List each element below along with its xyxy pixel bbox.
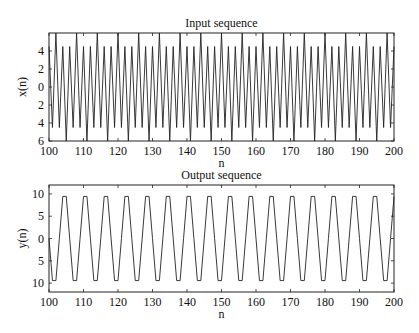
- y-axis-label: x(n): [15, 77, 29, 97]
- x-tick-label: 200: [385, 144, 403, 158]
- x-tick-label: 100: [40, 295, 58, 309]
- x-tick-label: 180: [316, 144, 334, 158]
- plot-title: Input sequence: [185, 16, 257, 30]
- y-axis-label: y(n): [15, 229, 29, 249]
- x-tick-label: 140: [178, 144, 196, 158]
- y-tick-label: 2: [38, 98, 44, 112]
- y-tick-label: 0: [38, 232, 44, 246]
- x-tick-label: 140: [178, 295, 196, 309]
- x-tick-label: 190: [351, 295, 369, 309]
- y-tick-label: 0: [38, 80, 44, 94]
- data-line: [49, 33, 394, 141]
- input-sequence-plot: 100110120130140150160170180190200420246I…: [15, 16, 403, 170]
- y-tick-label: 10: [32, 187, 44, 201]
- x-tick-label: 130: [144, 295, 162, 309]
- y-tick-label: 5: [38, 254, 44, 268]
- x-tick-label: 120: [109, 144, 127, 158]
- x-tick-label: 170: [282, 295, 300, 309]
- x-tick-label: 200: [385, 295, 403, 309]
- y-tick-label: 10: [32, 276, 44, 290]
- x-tick-label: 170: [282, 144, 300, 158]
- x-tick-label: 190: [351, 144, 369, 158]
- figure: 100110120130140150160170180190200420246I…: [0, 0, 419, 333]
- x-tick-label: 160: [247, 144, 265, 158]
- data-line: [49, 196, 394, 280]
- x-tick-label: 180: [316, 295, 334, 309]
- y-tick-label: 6: [38, 134, 44, 148]
- y-tick-label: 2: [38, 62, 44, 76]
- x-tick-label: 110: [75, 295, 93, 309]
- x-tick-label: 160: [247, 295, 265, 309]
- y-tick-label: 4: [38, 44, 44, 58]
- x-tick-label: 130: [144, 144, 162, 158]
- y-tick-label: 5: [38, 209, 44, 223]
- x-axis-label: n: [219, 307, 225, 321]
- plot-title: Output sequence: [181, 168, 261, 182]
- chart-canvas: 100110120130140150160170180190200420246I…: [0, 0, 419, 333]
- y-tick-label: 4: [38, 116, 44, 130]
- x-tick-label: 110: [75, 144, 93, 158]
- output-sequence-plot: 1001101201301401501601701801902001050510…: [15, 168, 403, 321]
- x-tick-label: 120: [109, 295, 127, 309]
